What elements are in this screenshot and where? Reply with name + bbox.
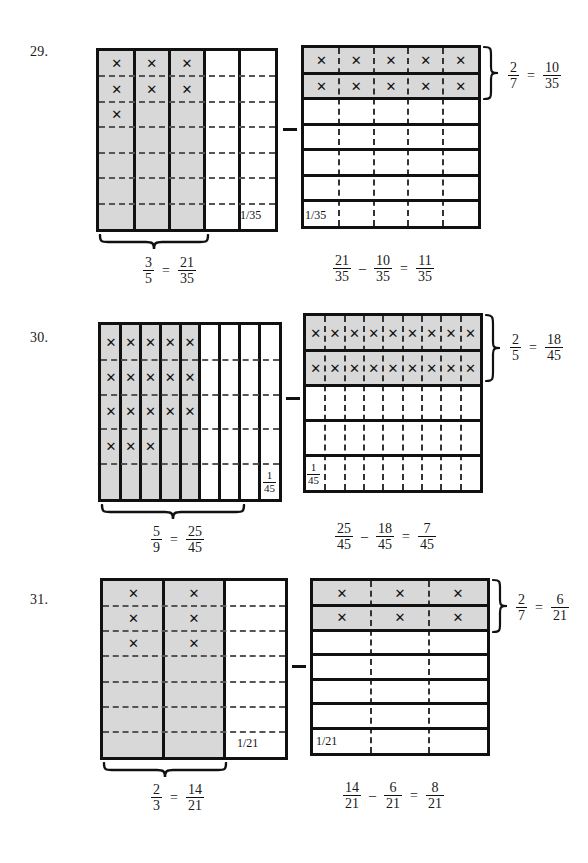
grid-30-right-column-divider-dashed <box>324 316 326 490</box>
grid-29-left-cell <box>169 178 204 203</box>
brace-30-right <box>485 313 501 385</box>
grid-30-left-cell <box>259 429 279 464</box>
grid-31-right-cell <box>371 704 429 729</box>
minus-sign: – <box>361 529 368 545</box>
grid-30-right-cell: ✕ <box>306 316 325 351</box>
grid-30-right-cell <box>364 420 383 455</box>
grid-31-left-cell <box>103 656 164 681</box>
grid-29-right-cell <box>374 201 409 226</box>
grid-30-right-cell <box>325 455 344 490</box>
x-mark: ✕ <box>351 79 362 92</box>
grid-29-right-cell <box>374 124 409 149</box>
x-mark: ✕ <box>189 612 200 625</box>
grid-30-right-cell <box>383 420 402 455</box>
x-mark: ✕ <box>185 370 196 383</box>
grid-29-right-cell <box>443 99 478 124</box>
grid-30-left-cell: ✕ <box>101 360 121 395</box>
grid-29-right-cell <box>374 175 409 200</box>
x-mark: ✕ <box>146 57 157 70</box>
grid-30-left-cell: ✕ <box>160 360 180 395</box>
x-mark: ✕ <box>316 79 327 92</box>
x-mark: ✕ <box>111 108 122 121</box>
grid-30-right-cell: ✕ <box>441 351 460 386</box>
grid-29-right-cell <box>374 150 409 175</box>
x-mark: ✕ <box>446 326 457 339</box>
brace-29-right <box>483 45 499 101</box>
grid-30-left-cell <box>200 429 220 464</box>
grid-31-left-cell: ✕ <box>164 606 225 631</box>
equals-sign: = <box>410 788 418 804</box>
grid-29-right-cell <box>408 201 443 226</box>
grid-30-left-cell: ✕ <box>121 360 141 395</box>
grid-29-right-cell: ✕ <box>374 48 409 73</box>
fraction-29-right-a: 2 7 <box>508 60 519 91</box>
grid-29-right-cell <box>443 201 478 226</box>
grid-30-left-cell <box>220 464 240 499</box>
grid-30-left-cell <box>259 395 279 430</box>
grid-31-right-row-divider <box>313 653 487 656</box>
brace-30-left <box>100 504 246 520</box>
x-mark: ✕ <box>388 326 399 339</box>
grid-29-left-cell <box>205 102 240 127</box>
x-mark: ✕ <box>330 326 341 339</box>
brace-31-left <box>102 762 228 778</box>
grid-30-right-column-divider-dashed <box>402 316 404 490</box>
x-mark: ✕ <box>165 335 176 348</box>
x-mark: ✕ <box>351 54 362 67</box>
fraction-30-eq-a: 25 45 <box>335 521 353 552</box>
x-mark: ✕ <box>330 361 341 374</box>
grid-30-left-column-divider <box>139 325 142 499</box>
x-mark: ✕ <box>128 612 139 625</box>
x-mark: ✕ <box>386 79 397 92</box>
grid-31-right-cell: ✕ <box>371 581 429 606</box>
x-mark: ✕ <box>111 57 122 70</box>
minus-operator-31 <box>292 665 306 668</box>
x-mark: ✕ <box>105 370 116 383</box>
equals-sign: = <box>402 529 410 545</box>
grid-31-right-cell: ✕ <box>313 581 371 606</box>
x-mark: ✕ <box>310 361 321 374</box>
x-mark: ✕ <box>337 586 348 599</box>
grid-29-right-row-divider <box>304 199 478 202</box>
grid-30-right-cell <box>441 386 460 421</box>
grid-29-right-row-divider <box>304 97 478 100</box>
equals-sign: = <box>162 263 170 279</box>
x-mark: ✕ <box>386 54 397 67</box>
grid-30-left-cell <box>180 464 200 499</box>
x-mark: ✕ <box>395 611 406 624</box>
grid-31-right-cell: ✕ <box>429 581 487 606</box>
x-mark: ✕ <box>453 586 464 599</box>
grid-29-left-cell <box>205 76 240 101</box>
brace-29-left <box>98 234 210 250</box>
grid-31-left-cell: ✕ <box>164 581 225 606</box>
grid-31-right-row-divider <box>313 727 487 730</box>
grid-30-left-cell <box>160 464 180 499</box>
x-mark: ✕ <box>182 82 193 95</box>
grid-29-left-cell <box>134 127 169 152</box>
grid-30-right-cell <box>325 420 344 455</box>
grid-30-right-cell <box>364 386 383 421</box>
grid-29-left-cell <box>169 127 204 152</box>
x-mark: ✕ <box>185 405 196 418</box>
x-mark: ✕ <box>185 335 196 348</box>
x-mark: ✕ <box>105 405 116 418</box>
grid-30-right-cell <box>461 455 480 490</box>
grid-30-right-cell <box>345 386 364 421</box>
fraction-30-eq-c: 7 45 <box>418 521 436 552</box>
x-mark: ✕ <box>349 361 360 374</box>
grid-29-left-cell: ✕ <box>99 51 134 76</box>
minus-operator-30 <box>286 397 300 400</box>
grid-31-left-cell <box>164 682 225 707</box>
grid-31-left-cell <box>224 707 285 732</box>
grid-30-right-cell <box>325 386 344 421</box>
x-mark: ✕ <box>337 611 348 624</box>
grid-31-right-cell <box>313 655 371 680</box>
fraction-31-eq-b: 6 21 <box>384 780 402 811</box>
grid-30-right-cell: ✕ <box>383 316 402 351</box>
grid-30-right-row-divider <box>306 384 480 387</box>
x-mark: ✕ <box>388 361 399 374</box>
grid-31-right-cell <box>429 655 487 680</box>
grid-31-right-row-divider <box>313 678 487 681</box>
grid-30-right-cell <box>422 386 441 421</box>
grid-29-right-row-divider <box>304 148 478 151</box>
